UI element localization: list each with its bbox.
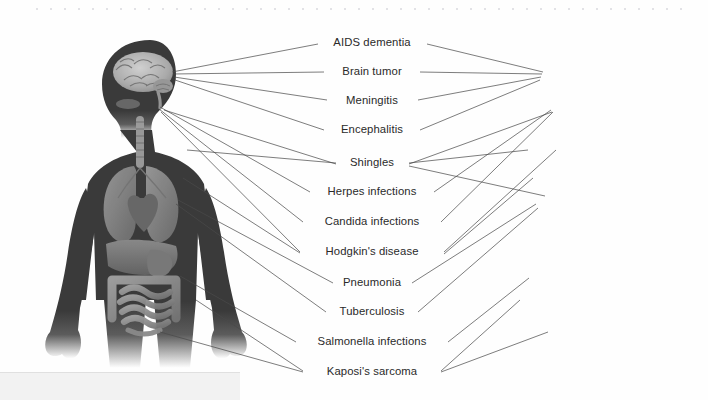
label-salmonella-infections: Salmonella infections bbox=[318, 335, 427, 347]
label-candida-infections: Candida infections bbox=[325, 215, 420, 227]
label-tuberculosis: Tuberculosis bbox=[340, 305, 405, 317]
label-pneumonia: Pneumonia bbox=[343, 276, 402, 288]
scan-shadow-band bbox=[0, 372, 240, 400]
label-shingles: Shingles bbox=[350, 156, 394, 168]
label-hodgkins-disease: Hodgkin's disease bbox=[325, 245, 418, 257]
anatomical-diagram: AIDS dementia Brain tumor Meningitis Enc… bbox=[0, 0, 708, 400]
label-encephalitis: Encephalitis bbox=[341, 123, 403, 135]
label-aids-dementia: AIDS dementia bbox=[333, 36, 411, 48]
label-brain-tumor: Brain tumor bbox=[342, 65, 402, 77]
label-meningitis: Meningitis bbox=[346, 94, 398, 106]
diagram-canvas: AIDS dementia Brain tumor Meningitis Enc… bbox=[0, 0, 708, 400]
left-figure bbox=[45, 40, 247, 368]
label-kaposis-sarcoma: Kaposi's sarcoma bbox=[327, 365, 418, 377]
label-herpes-infections: Herpes infections bbox=[328, 185, 417, 197]
label-group: AIDS dementia Brain tumor Meningitis Enc… bbox=[318, 36, 427, 377]
